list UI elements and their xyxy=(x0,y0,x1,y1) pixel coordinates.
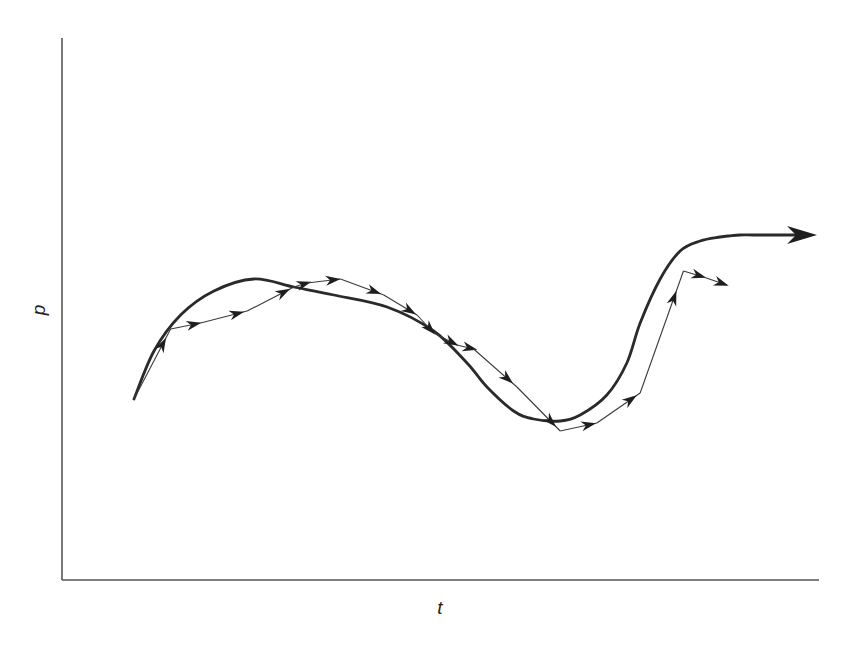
step-arrowhead xyxy=(275,289,291,300)
x-axis-label: t xyxy=(437,597,443,618)
smooth-trajectory-curve xyxy=(134,235,800,421)
trajectory-diagram: p t xyxy=(0,0,854,645)
step-arrowhead xyxy=(498,370,513,384)
y-axis-label: p xyxy=(28,305,49,317)
step-segment xyxy=(640,271,683,393)
plot-marks xyxy=(134,226,817,431)
step-arrowhead xyxy=(622,395,637,408)
